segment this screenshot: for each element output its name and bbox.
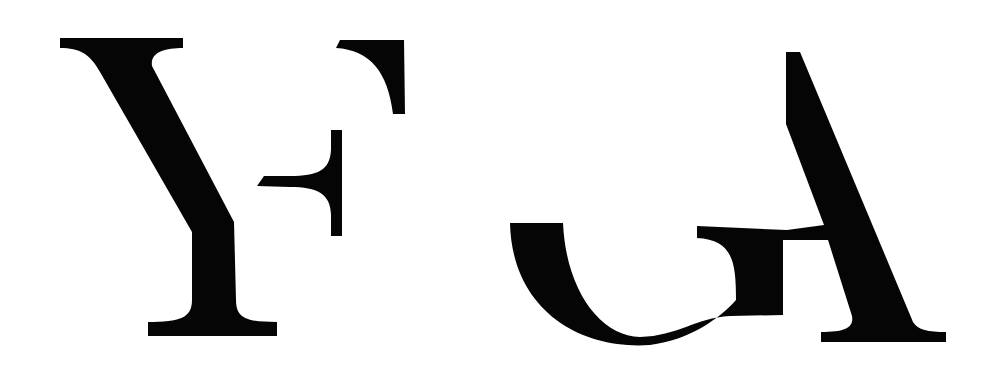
letter-a-glyph xyxy=(786,52,946,342)
left-monogram xyxy=(60,38,405,336)
letter-f-middle-glyph xyxy=(257,130,342,236)
logo-artwork xyxy=(0,0,988,366)
letter-g-glyph xyxy=(510,223,787,345)
letter-f-top-glyph xyxy=(336,40,405,114)
right-monogram xyxy=(510,52,946,345)
letter-y-glyph xyxy=(60,38,277,336)
